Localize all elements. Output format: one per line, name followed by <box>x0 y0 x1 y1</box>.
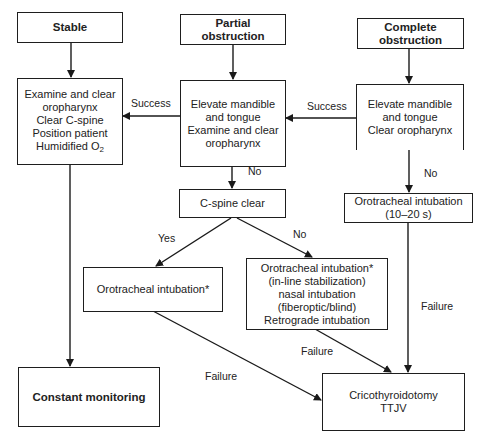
node-stable: Stable <box>17 12 123 43</box>
node-elevate-complete-line3: Clear oropharynx <box>368 124 452 137</box>
node-examine-line5: Humidified O2 <box>36 140 104 156</box>
node-oro-options-line1: Orotracheal intubation* <box>261 262 374 275</box>
node-examine-line2: oropharynx <box>42 101 97 114</box>
node-orotracheal-timed: Orotracheal intubation (10–20 s) <box>344 193 473 223</box>
edge-label-no-cspine: No <box>293 228 306 240</box>
node-oro-options-line4: (fiberoptic/blind) <box>278 301 356 314</box>
node-orotracheal-simple: Orotracheal intubation* <box>83 267 223 312</box>
node-partial-line1: Partial <box>215 17 250 30</box>
node-examine-clear: Examine and clear oropharynx Clear C-spi… <box>17 78 123 165</box>
node-oro-timed-line1: Orotracheal intubation <box>354 195 462 208</box>
node-elevate-complete-line2: and tongue <box>382 111 437 124</box>
node-complete-line2: obstruction <box>379 34 442 47</box>
node-complete-line1: Complete <box>384 21 436 34</box>
node-elevate-complete-line1: Elevate mandible <box>368 98 452 111</box>
edge-label-no-complete: No <box>424 167 437 179</box>
node-examine-line1: Examine and clear <box>24 88 115 101</box>
node-elevate-partial-line1: Elevate mandible <box>191 98 275 111</box>
node-oro-options-line2: (in-line stabilization) <box>268 275 365 288</box>
node-complete-obstruction: Complete obstruction <box>357 18 464 49</box>
node-monitoring-text: Constant monitoring <box>32 391 145 404</box>
edge-label-failure-options: Failure <box>301 345 333 357</box>
edge-label-yes: Yes <box>158 232 175 244</box>
edge-label-success-left: Success <box>131 97 171 109</box>
node-examine-line4: Position patient <box>32 127 107 140</box>
node-crico-line1: Cricothyroidotomy <box>349 389 438 402</box>
node-cricothyroidotomy: Cricothyroidotomy TTJV <box>322 373 465 431</box>
node-elevate-complete: Elevate mandible and tongue Clear oropha… <box>356 84 464 150</box>
node-oro-timed-line2: (10–20 s) <box>385 208 431 221</box>
edge-label-failure-simple: Failure <box>205 370 237 382</box>
node-cspine-clear: C-spine clear <box>179 189 286 218</box>
node-examine-line5-text: Humidified O <box>36 140 100 152</box>
node-examine-line3: Clear C-spine <box>36 114 103 127</box>
node-constant-monitoring: Constant monitoring <box>18 367 160 427</box>
node-partial-line2: obstruction <box>201 30 264 43</box>
node-examine-subscript: 2 <box>100 145 104 154</box>
node-partial-obstruction: Partial obstruction <box>180 14 286 45</box>
node-crico-line2: TTJV <box>380 402 406 415</box>
edge-label-success-right: Success <box>307 100 347 112</box>
node-stable-text: Stable <box>53 21 88 34</box>
node-elevate-partial: Elevate mandible and tongue Examine and … <box>180 80 286 167</box>
edge-label-no-partial: No <box>248 165 261 177</box>
node-oro-simple-text: Orotracheal intubation* <box>97 283 210 296</box>
node-elevate-partial-line2: and tongue <box>205 111 260 124</box>
edge-label-failure-timed: Failure <box>421 300 453 312</box>
node-orotracheal-options: Orotracheal intubation* (in-line stabili… <box>246 258 388 330</box>
node-elevate-partial-line3: Examine and clear <box>187 124 278 137</box>
node-cspine-text: C-spine clear <box>200 197 265 210</box>
node-oro-options-line5: Retrograde intubation <box>264 314 370 327</box>
node-oro-options-line3: nasal intubation <box>278 288 355 301</box>
node-elevate-partial-line4: oropharynx <box>205 137 260 150</box>
